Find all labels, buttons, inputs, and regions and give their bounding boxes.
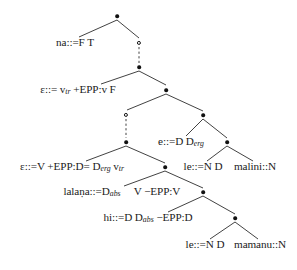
tree-node-dot-n3 bbox=[137, 65, 141, 69]
tree-node-dot-n12 bbox=[163, 165, 167, 169]
tree-node-label-n18: hi::=D Dabs −EPP:D bbox=[103, 212, 192, 225]
tree-node-dot-n8 bbox=[124, 140, 128, 144]
tree-node-dot-n17 bbox=[201, 190, 205, 194]
derivation-tree-figure: na::=F Tε::= vtr +EPP:v Fe::=D Dergε::=V… bbox=[0, 0, 297, 270]
tree-edge-n0-n1 bbox=[79, 20, 117, 37]
tree-edge-n17-n19 bbox=[203, 196, 235, 214]
tree-node-label-n15: lalaṇa::=Dabs bbox=[63, 186, 120, 199]
tree-edge-n10-n13 bbox=[207, 146, 227, 161]
tree-node-label-n16: V −EPP:V bbox=[134, 186, 181, 197]
tree-edges-layer bbox=[0, 0, 297, 270]
tree-node-label-n13: le::=N D bbox=[184, 161, 223, 172]
tree-edge-n8-n12 bbox=[126, 146, 165, 163]
tree-edge-n19-n21 bbox=[235, 222, 258, 239]
tree-node-circle-n6 bbox=[124, 113, 128, 117]
tree-edge-n7-n9 bbox=[186, 119, 203, 136]
tree-node-label-n4: ε::= vtr +EPP:v F bbox=[40, 84, 115, 97]
tree-edge-n17-n18 bbox=[168, 196, 203, 212]
tree-node-label-n9: e::=D Derg bbox=[158, 136, 204, 149]
tree-node-dot-n5 bbox=[164, 88, 168, 92]
tree-node-label-n11: ε::=V +EPP:D= Derg vtr bbox=[20, 161, 124, 174]
tree-edge-n7-n10 bbox=[203, 119, 227, 138]
tree-node-dot-n10 bbox=[225, 140, 229, 144]
tree-node-label-n1: na::=F T bbox=[56, 37, 94, 48]
tree-node-dot-n0 bbox=[115, 14, 119, 18]
tree-node-label-n21: mamanu::N bbox=[234, 239, 286, 250]
tree-node-dot-n7 bbox=[201, 113, 205, 117]
tree-edge-n5-n6 bbox=[127, 94, 166, 110]
tree-edge-n10-n14 bbox=[227, 146, 253, 161]
tree-node-label-n20: le::=N D bbox=[186, 239, 225, 250]
tree-edge-n12-n15 bbox=[124, 171, 165, 186]
tree-node-label-n14: malini::N bbox=[234, 161, 276, 172]
tree-edge-n3-n5 bbox=[139, 71, 166, 85]
tree-edge-n5-n7 bbox=[166, 94, 203, 111]
tree-edge-n0-n2 bbox=[117, 20, 139, 38]
tree-edge-n19-n20 bbox=[210, 222, 235, 239]
tree-node-circle-n2 bbox=[137, 41, 141, 45]
tree-edge-n8-n11 bbox=[86, 146, 126, 161]
tree-node-dot-n19 bbox=[233, 216, 237, 220]
